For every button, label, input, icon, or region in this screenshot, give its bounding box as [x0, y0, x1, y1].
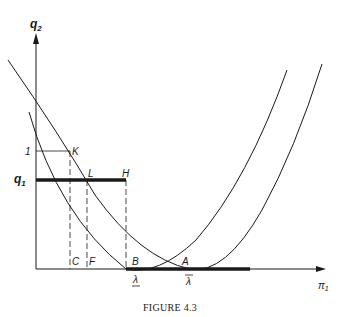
- x-axis-arrow-icon: [316, 266, 326, 272]
- figure-caption: FIGURE 4.3: [143, 302, 197, 313]
- point-F-label: F: [89, 256, 96, 267]
- one-label: 1: [25, 146, 31, 157]
- point-B-label: B: [132, 256, 139, 267]
- x-axis-label: π1: [318, 280, 329, 292]
- point-L-label: L: [88, 168, 94, 179]
- point-H-label: H: [122, 168, 130, 179]
- point-K-label: K: [72, 146, 80, 157]
- curve-lower-lambda: [29, 70, 287, 270]
- figure-4-3: q2 π1 1 q1 K L H C F B A λ λ FIGURE 4.3: [0, 0, 341, 317]
- y-axis-label: q2: [30, 17, 42, 33]
- lambda-upper-label: λ: [185, 276, 191, 287]
- dashed-guides: [70, 151, 126, 269]
- q1-label: q1: [14, 172, 26, 188]
- curve-upper-lambda: [8, 60, 322, 270]
- point-A-label: A: [181, 256, 189, 267]
- point-C-label: C: [72, 256, 80, 267]
- lambda-lower-label: λ: [132, 274, 138, 285]
- y-axis-arrow-icon: [33, 33, 39, 44]
- curves: [8, 60, 322, 270]
